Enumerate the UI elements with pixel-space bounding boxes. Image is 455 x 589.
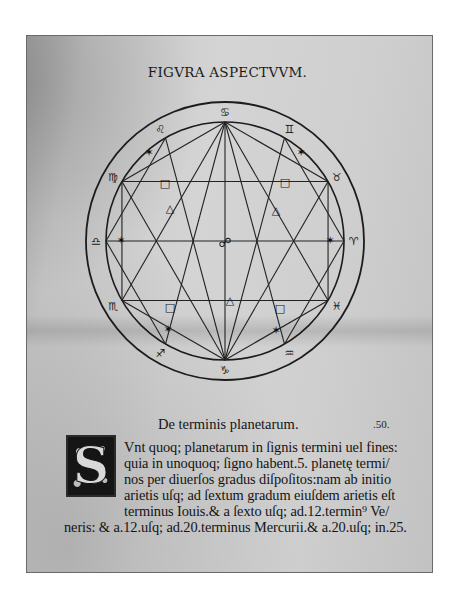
zodiac-leo-icon: ♌	[156, 123, 166, 136]
square-icon: □	[280, 176, 290, 189]
zodiac-sagittarius-icon: ♐	[156, 347, 166, 360]
zodiac-aries-icon: ♈	[349, 235, 359, 248]
zodiac-pisces-icon: ♓	[332, 300, 342, 313]
square-icon: □	[165, 301, 175, 314]
aspect-line	[106, 138, 166, 241]
aspect-line	[166, 138, 226, 360]
trine-icon: △	[166, 202, 175, 215]
text-line-1: Vnt quoq; planetarum in ſignis termini u…	[124, 439, 398, 456]
zodiac-capricorn-icon: ♑	[220, 364, 230, 377]
text-line-3: nos per diuerſos gradus diſpoſitos:nam a…	[124, 471, 391, 488]
zodiac-cancer-icon: ♋	[220, 106, 230, 119]
aspect-line	[122, 122, 225, 182]
trine-icon: △	[272, 204, 281, 217]
zodiac-virgo-icon: ♍	[108, 171, 118, 184]
sextile-icon: ✶	[116, 234, 125, 247]
aspect-line	[106, 241, 166, 344]
zodiac-scorpio-icon: ♏	[108, 300, 118, 313]
aspect-line	[225, 122, 328, 182]
trine-icon: △	[226, 294, 235, 307]
square-icon: □	[275, 302, 285, 315]
sextile-icon: ✶	[271, 324, 280, 337]
ornamental-initial: S	[66, 435, 116, 497]
zodiac-taurus-icon: ♉	[332, 171, 342, 184]
zodiac-aquarius-icon: ♒	[285, 347, 295, 360]
text-line-4: arietis uſq; ad ſextum gradum eiuſdem ar…	[124, 487, 395, 504]
initial-letter: S	[73, 441, 109, 491]
sextile-icon: ✶	[325, 234, 334, 247]
folio-number: .50.	[373, 418, 390, 430]
text-line-5: terminus Iouis.& a ſexto uſq; ad.12.term…	[124, 503, 389, 520]
sextile-icon: ✶	[163, 323, 172, 336]
sextile-icon: ✶	[144, 146, 153, 159]
zodiac-libra-icon: ♎	[91, 235, 101, 248]
zodiac-gemini-icon: ♊	[285, 123, 295, 136]
sextile-icon: ✶	[296, 146, 305, 159]
square-icon: □	[160, 177, 170, 190]
aspect-line	[285, 241, 345, 344]
opposition-icon: ☍	[218, 235, 231, 250]
text-line-6: neris: & a.12.uſq; ad.20.terminus Mercur…	[64, 519, 407, 536]
aspect-line	[285, 138, 345, 241]
text-line-2: quia in unoquoq; ſigno habent.5. planetę…	[124, 455, 389, 472]
section-heading: De terminis planetarum.	[158, 416, 299, 433]
